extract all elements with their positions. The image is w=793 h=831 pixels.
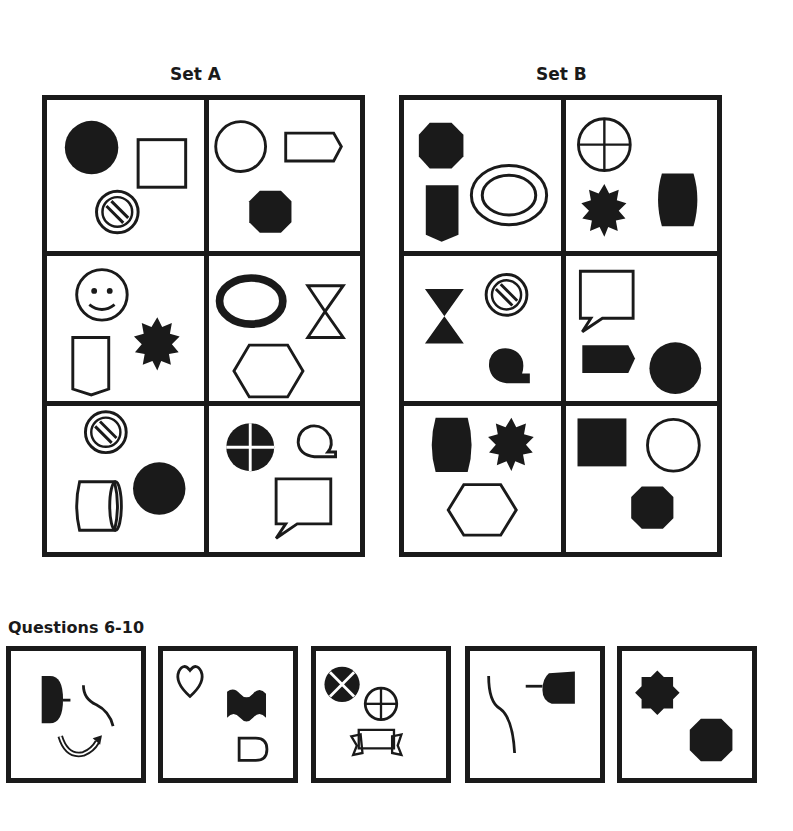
filled-circle-icon: [649, 342, 701, 394]
filled-octagon-icon: [419, 123, 464, 169]
outline-hexagon-icon: [448, 485, 516, 535]
outline-heart-icon: [178, 667, 202, 697]
set-b-cell-5: [404, 401, 561, 552]
outline-hourglass-icon: [307, 285, 342, 337]
filled-eight-point-star-icon: [635, 670, 679, 714]
question-10-box[interactable]: [617, 646, 757, 783]
striped-circle-icon: [486, 274, 527, 315]
set-b-cell-4: [561, 251, 718, 402]
filled-arrow-pentagon-icon: [582, 345, 635, 373]
outline-cylinder-icon: [77, 482, 122, 531]
outline-hexagon-icon: [233, 345, 302, 397]
question-7-box[interactable]: [158, 646, 298, 783]
outline-shield-icon: [73, 337, 109, 394]
striped-circle-icon: [85, 412, 126, 453]
outline-speech-loop-icon: [298, 426, 335, 457]
filled-hourglass-icon: [425, 289, 464, 343]
outline-square-icon: [138, 140, 186, 188]
set-a-cell-4: [204, 251, 361, 402]
set-b-cell-3: [404, 251, 561, 402]
filled-starburst-icon: [581, 184, 626, 237]
curved-arrow-icon: [60, 735, 102, 754]
set-b-cell-2: [561, 100, 718, 251]
outline-ribbon-banner-icon: [351, 730, 401, 755]
set-b-grid: [399, 95, 722, 557]
set-a-cell-1: [47, 100, 204, 251]
outline-circle-icon: [647, 420, 699, 472]
set-a-cell-5: [47, 401, 204, 552]
filled-half-disc-with-stem-icon: [42, 676, 71, 723]
question-9-box[interactable]: [465, 646, 605, 783]
filled-x-circle-icon: [324, 667, 359, 702]
striped-circle-icon: [97, 191, 139, 233]
outline-arrow-pentagon-icon: [285, 133, 341, 161]
set-b-cell-6: [561, 401, 718, 552]
set-b-title: Set B: [536, 64, 587, 84]
filled-barrel-icon: [432, 418, 472, 472]
filled-speech-loop-icon: [489, 348, 530, 383]
filled-circle-icon: [133, 463, 185, 515]
filled-circle-icon: [65, 121, 118, 174]
filled-cap-with-stem-icon: [526, 671, 575, 703]
outline-crosshair-circle-icon: [578, 119, 630, 171]
questions-title: Questions 6-10: [8, 618, 144, 637]
set-a-cell-6: [204, 401, 361, 552]
double-outline-ellipse-icon: [471, 165, 546, 224]
set-b-cell-1: [404, 100, 561, 251]
filled-octagon-icon: [631, 487, 673, 529]
outline-speech-bubble-icon: [580, 271, 633, 331]
filled-starburst-icon: [134, 317, 180, 370]
outline-circle-icon: [215, 122, 265, 172]
set-a-grid: [42, 95, 365, 557]
smiley-face-icon: [77, 269, 127, 319]
s-curve-line-icon: [83, 685, 113, 726]
set-a-cell-3: [47, 251, 204, 402]
outline-speech-bubble-icon: [276, 479, 331, 538]
set-a-cell-2: [204, 100, 361, 251]
filled-barrel-icon: [658, 173, 697, 226]
outline-crosshair-circle-icon: [365, 688, 397, 720]
filled-square-icon: [577, 419, 626, 467]
question-8-box[interactable]: [311, 646, 451, 783]
outline-bullet-shape-icon: [239, 738, 267, 760]
filled-wavy-band-icon: [227, 689, 266, 721]
filled-quartered-circle-icon: [226, 424, 274, 472]
s-curve-line-icon: [489, 676, 515, 753]
filled-starburst-icon: [488, 418, 534, 471]
set-a-title: Set A: [170, 64, 221, 84]
filled-shield-icon: [426, 185, 459, 241]
question-6-box[interactable]: [6, 646, 146, 783]
filled-octagon-icon: [690, 719, 733, 762]
filled-octagon-icon: [249, 191, 291, 233]
thick-outline-ellipse-icon: [219, 278, 282, 324]
